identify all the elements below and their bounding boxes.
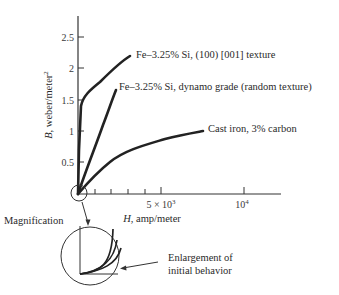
x-tick-5e3: 5 × 103: [146, 198, 176, 210]
label-cast-iron: Cast iron, 3% carbon: [208, 123, 297, 134]
enlargement-label-line1: Enlargement of: [168, 252, 233, 263]
y-tick-0.5: 0.5: [62, 157, 75, 168]
x-tick-1e4: 104: [235, 198, 249, 210]
x-ticks: [95, 187, 244, 194]
magnification-arrowhead-icon: [86, 220, 91, 227]
y-tick-1.5: 1.5: [62, 95, 75, 106]
curve-dynamo-fe-si: [78, 90, 116, 194]
label-dynamo: Fe–3.25% Si, dynamo grade (random textur…: [119, 81, 312, 93]
enlargement-arrow: [123, 262, 158, 268]
y-tick-2: 2: [69, 63, 74, 74]
y-axis-title: B, weber/meter2: [42, 71, 54, 139]
inset-enlargement: [61, 226, 121, 285]
y-tick-1: 1: [69, 126, 74, 137]
magnification-label: Magnification: [4, 215, 64, 226]
enlargement-label-line2: initial behavior: [168, 265, 232, 276]
y-tick-labels: 2.5 2 1.5 1 0.5: [62, 32, 75, 168]
x-axis-title: H, amp/meter: [122, 213, 181, 224]
enlargement-arrowhead-icon: [120, 266, 127, 271]
y-tick-2.5: 2.5: [62, 32, 75, 43]
bh-curve-chart: 2.5 2 1.5 1 0.5 5 × 103 104 H, amp/meter…: [0, 0, 339, 295]
label-textured: Fe–3.25% Si, (100) [001] texture: [136, 49, 276, 61]
